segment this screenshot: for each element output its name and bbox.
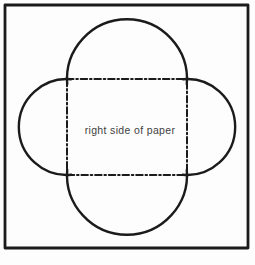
diagram-label: right side of paper [85, 124, 176, 136]
diagram-canvas: right side of paper [0, 0, 255, 265]
left-flap-arc [19, 79, 71, 175]
top-flap-arc [67, 19, 187, 84]
bottom-flap-arc [67, 170, 187, 235]
paper-template-diagram: right side of paper [0, 0, 255, 265]
right-flap-arc [183, 79, 235, 175]
